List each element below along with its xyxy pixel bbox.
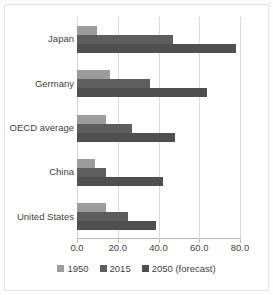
legend-swatch-icon bbox=[57, 265, 64, 272]
bar-oecd-average-2050 bbox=[77, 133, 175, 142]
category-label-oecd-average: OECD average bbox=[2, 122, 74, 133]
category-label-japan: Japan bbox=[2, 33, 74, 44]
bar-united-states-2050 bbox=[77, 221, 156, 230]
legend-item-2015[interactable]: 2015 bbox=[100, 263, 131, 274]
bar-germany-1950 bbox=[77, 70, 110, 79]
bar-germany-2050 bbox=[77, 88, 207, 97]
legend-swatch-icon bbox=[100, 265, 107, 272]
bar-oecd-average-1950 bbox=[77, 115, 106, 124]
x-axis-tick-label: 40.0 bbox=[139, 242, 179, 253]
bar-china-1950 bbox=[77, 159, 95, 168]
legend-item-2050[interactable]: 2050 (forecast) bbox=[142, 263, 216, 274]
bar-united-states-1950 bbox=[77, 203, 106, 212]
bar-china-2050 bbox=[77, 177, 163, 186]
category-label-china: China bbox=[2, 166, 74, 177]
x-axis-tick-label: 80.0 bbox=[220, 242, 260, 253]
legend-label: 2050 (forecast) bbox=[152, 263, 216, 274]
plot-area bbox=[77, 17, 240, 239]
gridline-80.0 bbox=[240, 17, 241, 239]
bar-united-states-2015 bbox=[77, 212, 128, 221]
x-axis-tick-label: 60.0 bbox=[179, 242, 219, 253]
legend-swatch-icon bbox=[142, 265, 149, 272]
category-label-united-states: United States bbox=[2, 211, 74, 222]
bar-japan-1950 bbox=[77, 26, 97, 35]
bar-japan-2050 bbox=[77, 44, 236, 53]
bar-japan-2015 bbox=[77, 35, 173, 44]
category-axis-labels: JapanGermanyOECD averageChinaUnited Stat… bbox=[0, 17, 74, 239]
x-axis-tick-label: 20.0 bbox=[98, 242, 138, 253]
category-label-germany: Germany bbox=[2, 78, 74, 89]
legend-label: 2015 bbox=[110, 263, 131, 274]
legend-label: 1950 bbox=[67, 263, 88, 274]
bar-china-2015 bbox=[77, 168, 106, 177]
bar-chart: JapanGermanyOECD averageChinaUnited Stat… bbox=[0, 0, 273, 295]
x-axis-tick-label: 0.0 bbox=[57, 242, 97, 253]
bar-oecd-average-2015 bbox=[77, 124, 132, 133]
legend-item-1950[interactable]: 1950 bbox=[57, 263, 88, 274]
chart-legend: 195020152050 (forecast) bbox=[0, 263, 273, 274]
bar-germany-2015 bbox=[77, 79, 150, 88]
